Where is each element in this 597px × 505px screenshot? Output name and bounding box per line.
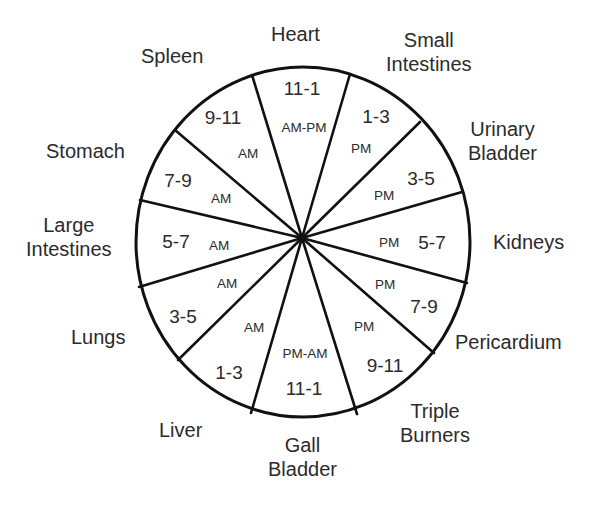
hours-stomach: 7-9	[164, 171, 191, 191]
organ-label-line: Intestines	[386, 52, 472, 76]
hours-spleen: 9-11	[205, 108, 242, 128]
period-kidneys: PM	[379, 236, 399, 250]
organ-label-line: Bladder	[268, 457, 337, 481]
hours-heart: 11-1	[284, 79, 321, 99]
period-gall-bladder: PM-AM	[283, 347, 328, 361]
organ-label-urinary-bladder: Urinary Bladder	[468, 117, 537, 165]
center-hub	[298, 234, 306, 242]
organ-label-spleen: Spleen	[141, 44, 203, 68]
organ-label-line: Gall	[268, 433, 337, 457]
organ-label-line: Intestines	[26, 237, 112, 261]
organ-label-large-intestines: Large Intestines	[26, 213, 112, 261]
period-urinary-bladder: PM	[374, 189, 394, 203]
organ-label-line: Triple	[400, 399, 470, 423]
period-pericardium: PM	[375, 278, 395, 292]
organ-label-line: Heart	[271, 22, 320, 46]
hours-large-intestines: 5-7	[162, 232, 189, 252]
organ-label-line: Pericardium	[455, 330, 562, 354]
period-large-intestines: AM	[209, 239, 229, 253]
hours-kidneys: 5-7	[418, 233, 445, 253]
period-spleen: AM	[238, 147, 258, 161]
organ-label-line: Burners	[400, 423, 470, 447]
organ-label-line: Spleen	[141, 44, 203, 68]
organ-label-line: Large	[26, 213, 112, 237]
organ-label-line: Bladder	[468, 141, 537, 165]
organ-label-line: Liver	[159, 418, 202, 442]
organ-label-gall-bladder: Gall Bladder	[268, 433, 337, 481]
organ-label-stomach: Stomach	[46, 139, 125, 163]
organ-label-small-intestines: Small Intestines	[386, 28, 472, 76]
period-small-intestines: PM	[351, 142, 371, 156]
organ-label-line: Stomach	[46, 139, 125, 163]
organ-label-lungs: Lungs	[71, 325, 126, 349]
organ-label-line: Small	[386, 28, 472, 52]
organ-label-line: Kidneys	[493, 230, 564, 254]
organ-label-heart: Heart	[271, 22, 320, 46]
period-lungs: AM	[217, 277, 237, 291]
hours-liver: 1-3	[215, 363, 242, 383]
period-triple-burners: PM	[354, 320, 374, 334]
hours-triple-burners: 9-11	[367, 356, 404, 376]
period-stomach: AM	[211, 192, 231, 206]
organ-label-liver: Liver	[159, 418, 202, 442]
period-heart: AM-PM	[282, 121, 327, 135]
hours-urinary-bladder: 3-5	[407, 169, 434, 189]
organ-label-pericardium: Pericardium	[455, 330, 562, 354]
organ-label-line: Lungs	[71, 325, 126, 349]
hours-lungs: 3-5	[169, 307, 196, 327]
organ-label-triple-burners: Triple Burners	[400, 399, 470, 447]
hours-small-intestines: 1-3	[362, 107, 389, 127]
organ-label-line: Urinary	[468, 117, 537, 141]
hours-gall-bladder: 11-1	[286, 379, 323, 399]
organ-label-kidneys: Kidneys	[493, 230, 564, 254]
hours-pericardium: 7-9	[410, 297, 437, 317]
period-liver: AM	[244, 321, 264, 335]
